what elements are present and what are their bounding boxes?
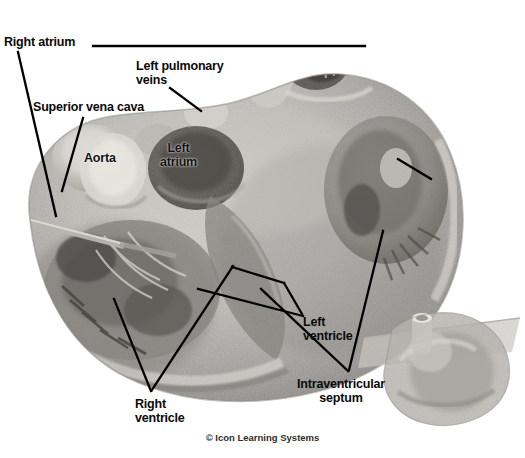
label-left-pulmonary-veins: Left pulmonary veins bbox=[136, 60, 223, 87]
label-left-atrium: Left atrium bbox=[160, 142, 197, 169]
label-right-ventricle: Right ventricle bbox=[135, 398, 185, 425]
label-aorta: Aorta bbox=[84, 152, 116, 166]
label-left-ventricle: Left ventricle bbox=[303, 316, 353, 343]
anatomy-figure: Right atrium Left pulmonary veins Superi… bbox=[0, 0, 525, 458]
copyright-notice: © Icon Learning Systems bbox=[0, 432, 525, 443]
label-intraventricular-septum: Intraventricular septum bbox=[281, 378, 401, 405]
leader-left-pulmonary-veins bbox=[170, 88, 201, 111]
heart-cross-section-illustration bbox=[0, 0, 525, 458]
label-right-atrium: Right atrium bbox=[4, 36, 75, 50]
label-superior-vena-cava: Superior vena cava bbox=[33, 101, 144, 115]
